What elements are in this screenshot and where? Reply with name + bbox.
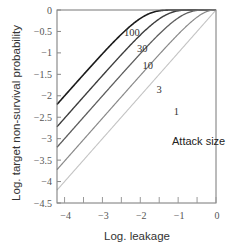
y-tick-label: −2.5 [34, 112, 52, 123]
y-tick-label: −0.5 [34, 26, 52, 37]
y-tick-label: −3.5 [34, 155, 52, 166]
x-tick-label: −2 [136, 210, 147, 221]
y-tick-label: −3 [41, 133, 52, 144]
x-tick-label: −4 [60, 210, 71, 221]
x-axis: −4−3−2−10 [60, 197, 219, 221]
curve-labels: 100301031 [124, 27, 179, 117]
y-tick-label: −4 [41, 176, 52, 187]
y-tick-label: −1 [41, 47, 52, 58]
curve-label: 1 [174, 106, 179, 117]
y-tick-label: −2 [41, 90, 52, 101]
x-tick-label: −1 [174, 210, 185, 221]
y-tick-label: −4.5 [34, 198, 52, 209]
x-tick-label: 0 [215, 210, 220, 221]
y-tick-label: −1.5 [34, 69, 52, 80]
x-axis-title: Log. leakage [104, 230, 170, 242]
y-tick-label: 0 [47, 5, 52, 16]
y-axis-title: Log. target non-survival probability [10, 25, 22, 201]
curve-label: 10 [143, 60, 154, 71]
curve-label: 3 [157, 84, 162, 95]
legend-title: Attack size [172, 135, 225, 147]
chart: 0−0.5−1−1.5−2−2.5−3−3.5−4−4.5 −4−3−2−10 … [0, 0, 232, 249]
x-tick-label: −3 [98, 210, 109, 221]
curve-label: 30 [137, 43, 148, 54]
curve-label: 100 [124, 27, 140, 38]
